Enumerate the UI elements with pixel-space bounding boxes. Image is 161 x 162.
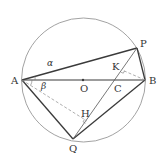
center-point-O: [82, 79, 84, 81]
label-beta: β: [40, 81, 46, 91]
label-B: B: [149, 75, 156, 86]
label-H: H: [81, 108, 90, 119]
perpendicular-BK: [122, 70, 145, 80]
label-K: K: [112, 61, 120, 72]
angle-arc-beta: [31, 80, 33, 85]
label-O: O: [80, 83, 88, 94]
label-C: C: [114, 83, 122, 94]
label-P: P: [140, 38, 147, 49]
geometry-figure: A B O P Q C K H α β: [0, 0, 161, 162]
label-Q: Q: [69, 143, 77, 154]
label-alpha: α: [47, 58, 53, 68]
label-A: A: [10, 75, 19, 86]
segment-AP: [22, 48, 137, 80]
